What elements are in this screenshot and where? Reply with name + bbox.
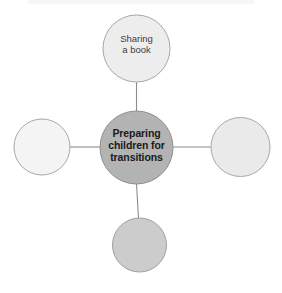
- diagram-canvas: Preparing children for transitions Shari…: [0, 0, 282, 293]
- branch-node-top[interactable]: [103, 15, 170, 82]
- center-node[interactable]: [100, 111, 173, 184]
- connector-bottom: [137, 184, 139, 218]
- branch-node-left[interactable]: [14, 119, 70, 175]
- branch-node-right[interactable]: [211, 118, 270, 177]
- branch-node-bottom[interactable]: [113, 218, 167, 272]
- mind-map-graphic: [0, 0, 282, 293]
